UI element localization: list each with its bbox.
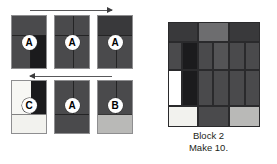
unit-a-3-letter: A — [108, 35, 123, 50]
unit-a-4-letter: A — [65, 98, 80, 113]
unit-c: C — [11, 80, 47, 134]
unit-b-bottom-band — [98, 114, 133, 134]
block-lower-bar-3 — [198, 70, 213, 106]
arrow-line — [30, 10, 112, 11]
block-2-grid — [168, 22, 260, 127]
unit-c-horizontal-seam — [12, 114, 47, 115]
block-lower-bar-5 — [229, 70, 245, 106]
assembly-top-row: A A A — [11, 15, 133, 69]
block-caption: Block 2 Make 10. — [140, 130, 277, 153]
unit-a-1-top-band — [12, 16, 47, 35]
block-mid-bar-6 — [245, 42, 260, 70]
block-lower-left-white — [168, 70, 182, 106]
block-lower-bar-6 — [245, 70, 260, 106]
assembly-bottom-row: C A B — [11, 80, 133, 134]
block-lower-bar-4 — [213, 70, 229, 106]
unit-a-2: A — [54, 15, 90, 69]
unit-c-letter: C — [22, 98, 37, 113]
block-bottom-left-offwhite — [168, 106, 198, 127]
block-bottom-center-dark — [198, 106, 229, 127]
unit-a-4-bottom-band — [55, 114, 90, 134]
block-2-figure — [168, 22, 260, 127]
unit-a-3: A — [97, 15, 133, 69]
assembly-sequence-panel: A A A — [0, 0, 140, 164]
unit-a-4-horizontal-seam — [55, 114, 90, 115]
block-mid-bar-1 — [168, 42, 182, 70]
arrow-head-left-icon — [29, 73, 35, 79]
unit-b-horizontal-seam — [98, 114, 133, 115]
unit-a-1: A — [11, 15, 47, 69]
block-top-left-dark — [168, 22, 198, 42]
block-lower-bar-black — [182, 70, 198, 106]
block-mid-bar-5 — [229, 42, 245, 70]
unit-a-4: A — [54, 80, 90, 134]
unit-b-letter: B — [108, 98, 123, 113]
block-caption-count: Make 10. — [140, 142, 277, 154]
unit-c-bottom-band — [12, 114, 47, 134]
unit-a-1-letter: A — [22, 35, 37, 50]
block-top-center-medium — [198, 22, 229, 42]
block-bottom-right-light — [229, 106, 260, 127]
block-mid-bar-4 — [213, 42, 229, 70]
arrow-line — [30, 76, 112, 77]
finished-block-panel: Block 2 Make 10. — [140, 0, 277, 164]
arrow-head-right-icon — [107, 7, 113, 13]
quilt-assembly-figure: A A A — [0, 0, 277, 164]
block-caption-title: Block 2 — [140, 130, 277, 142]
unit-a-2-letter: A — [65, 35, 80, 50]
unit-a-3-top-band — [98, 16, 133, 35]
block-top-right-dark — [229, 22, 260, 42]
block-mid-bar-black — [182, 42, 198, 70]
unit-b: B — [97, 80, 133, 134]
block-mid-bar-3 — [198, 42, 213, 70]
